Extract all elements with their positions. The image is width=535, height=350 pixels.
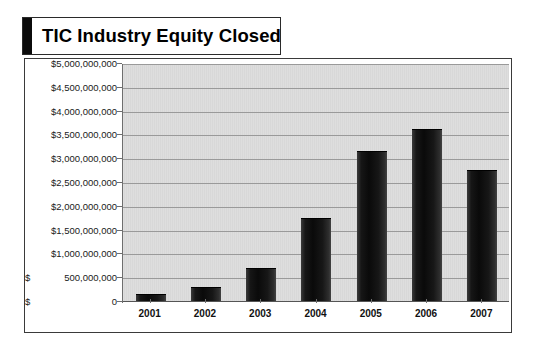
bar-2006[interactable] [412, 129, 442, 302]
x-axis-tick-label: 2001 [122, 307, 178, 321]
bar-2007[interactable] [467, 170, 497, 302]
x-axis-tick-label: 2005 [343, 307, 399, 321]
plot-area [122, 64, 509, 302]
chart-title-plate: TIC Industry Equity Closed [22, 17, 281, 55]
y-axis-tick-label: $2,500,000,000 [23, 177, 117, 189]
bar-slot [123, 64, 178, 302]
y-axis-tick-label: $3,000,000,000 [23, 153, 117, 165]
x-axis-tick-mark [481, 299, 482, 303]
bars-layer [123, 64, 509, 302]
y-axis-tick-label: $1,000,000,000 [23, 248, 117, 260]
bar-slot [178, 64, 233, 302]
x-axis-tick-mark [260, 299, 261, 303]
bar-slot [289, 64, 344, 302]
bar-2005[interactable] [357, 151, 387, 302]
chart-frame: $0$500,000,000$1,000,000,000$1,500,000,0… [24, 58, 512, 333]
x-axis-tick-mark [316, 299, 317, 303]
x-axis-origin-mark [122, 299, 123, 303]
bar-slot [344, 64, 399, 302]
y-axis-tick-label: $500,000,000 [23, 272, 117, 284]
x-axis-tick-label: 2003 [232, 307, 288, 321]
bar-2002[interactable] [191, 287, 221, 302]
x-axis-tick-label: 2006 [398, 307, 454, 321]
plot-wrapper: $0$500,000,000$1,000,000,000$1,500,000,0… [25, 59, 511, 332]
y-axis: $0$500,000,000$1,000,000,000$1,500,000,0… [25, 59, 121, 332]
y-axis-tick-label: $4,000,000,000 [23, 106, 117, 118]
chart-figure: TIC Industry Equity Closed $0$500,000,00… [0, 0, 535, 350]
x-axis-tick-mark [426, 299, 427, 303]
x-axis-tick-label: 2004 [288, 307, 344, 321]
x-axis: 2001200220032004200520062007 [122, 304, 508, 326]
y-axis-tick-label: $2,000,000,000 [23, 201, 117, 213]
y-axis-tick-label: $0 [23, 296, 117, 308]
y-axis-tick-label: $5,000,000,000 [23, 58, 117, 70]
title-accent-bar [23, 18, 32, 54]
bar-slot [234, 64, 289, 302]
y-axis-tick-label: $3,500,000,000 [23, 129, 117, 141]
bar-2004[interactable] [301, 218, 331, 302]
bar-slot [455, 64, 510, 302]
y-axis-tick-label: $4,500,000,000 [23, 82, 117, 94]
x-axis-tick-mark [205, 299, 206, 303]
x-axis-tick-label: 2002 [177, 307, 233, 321]
y-axis-tick-label: $1,500,000,000 [23, 225, 117, 237]
x-axis-tick-mark [371, 299, 372, 303]
x-axis-tick-mark [150, 299, 151, 303]
x-axis-tick-label: 2007 [453, 307, 509, 321]
bar-2003[interactable] [246, 268, 276, 302]
page-title: TIC Industry Equity Closed [32, 27, 281, 46]
bar-slot [399, 64, 454, 302]
